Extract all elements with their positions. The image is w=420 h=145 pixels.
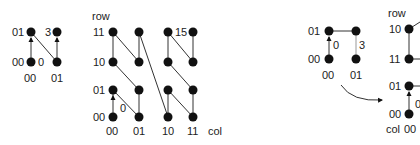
- curve-diagrams: 01 00 00 01 0 3 row 11 10 01 00 00 01 10…: [0, 0, 420, 145]
- panel-hilbert-4x4: row 10 11 01 00 col 00 0: [386, 7, 420, 135]
- panel-zorder-4x4: row 11 10 01 00 00 01 10 11 col 0 15: [92, 10, 222, 137]
- node: [352, 55, 361, 64]
- row-label: 01: [93, 84, 105, 96]
- axis-row-label: row: [92, 10, 110, 22]
- col-label: 10: [162, 125, 174, 137]
- end-label: 3: [359, 39, 365, 51]
- end-label: 15: [175, 26, 187, 38]
- transform-arrow: [341, 85, 382, 100]
- row-label: 10: [93, 56, 105, 68]
- col-label: 01: [350, 69, 362, 81]
- row-label: 00: [389, 108, 401, 120]
- node: [352, 27, 361, 36]
- node: [405, 55, 414, 64]
- col-label: 11: [187, 125, 198, 137]
- start-label: 0: [120, 102, 126, 114]
- col-label: 01: [51, 72, 63, 84]
- node: [53, 58, 62, 67]
- row-label: 01: [308, 25, 320, 37]
- row-label: 01: [389, 80, 401, 92]
- node: [53, 28, 62, 37]
- end-label: 3: [45, 26, 51, 38]
- node: [405, 110, 414, 119]
- row-label: 00: [93, 111, 105, 123]
- axis-row-label: row: [388, 7, 406, 19]
- axis-col-label: col: [386, 123, 400, 135]
- node: [27, 58, 36, 67]
- row-label: 00: [308, 53, 320, 65]
- node: [27, 28, 36, 37]
- col-label: 00: [106, 125, 118, 137]
- row-label: 01: [12, 26, 24, 38]
- col-label: 00: [404, 123, 416, 135]
- panel-zorder-2x2: 01 00 00 01 0 3: [12, 26, 63, 84]
- row-label: 11: [389, 53, 400, 65]
- row-label: 10: [389, 23, 401, 35]
- row-label: 00: [12, 56, 24, 68]
- axis-col-label: col: [208, 125, 222, 137]
- start-label: 0: [415, 98, 420, 110]
- node: [325, 27, 334, 36]
- start-label: 0: [333, 39, 339, 51]
- col-label: 01: [133, 125, 145, 137]
- node: [405, 82, 414, 91]
- panel-hilbert-2x2: 01 00 00 01 0 3: [308, 25, 382, 100]
- row-label: 11: [93, 26, 104, 38]
- col-label: 00: [24, 72, 36, 84]
- col-label: 00: [322, 69, 334, 81]
- start-label: 0: [38, 56, 44, 68]
- node: [325, 55, 334, 64]
- node: [405, 25, 414, 34]
